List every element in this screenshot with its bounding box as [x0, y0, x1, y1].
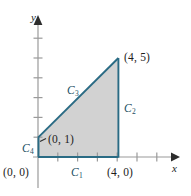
y-axis-label: y — [31, 12, 36, 23]
curve-label-c2-sub: 2 — [132, 107, 136, 116]
curve-label-c1-base: C — [71, 166, 79, 178]
x-axis-arrowhead — [171, 152, 180, 161]
curve-label-c3-base: C — [67, 84, 75, 96]
point-label-4-5: (4, 5) — [124, 52, 150, 64]
figure-container: y x (0, 0) (0, 1) (4, 0) (4, 5) C1 C2 C3… — [0, 0, 191, 196]
point-label-0-1: (0, 1) — [48, 134, 74, 146]
curve-label-c3: C3 — [67, 85, 78, 97]
point-label-origin: (0, 0) — [3, 167, 29, 179]
curve-label-c1-sub: 1 — [79, 171, 83, 180]
curve-label-c4-sub: 4 — [30, 147, 34, 156]
curve-label-c2-base: C — [124, 102, 132, 114]
curve-label-c1: C1 — [71, 167, 82, 179]
curve-label-c3-sub: 3 — [75, 89, 79, 98]
curve-label-c4-base: C — [22, 142, 30, 154]
x-axis-label: x — [172, 163, 177, 174]
curve-label-c4: C4 — [22, 143, 33, 155]
curve-label-c2: C2 — [124, 103, 135, 115]
point-label-4-0: (4, 0) — [107, 167, 133, 179]
